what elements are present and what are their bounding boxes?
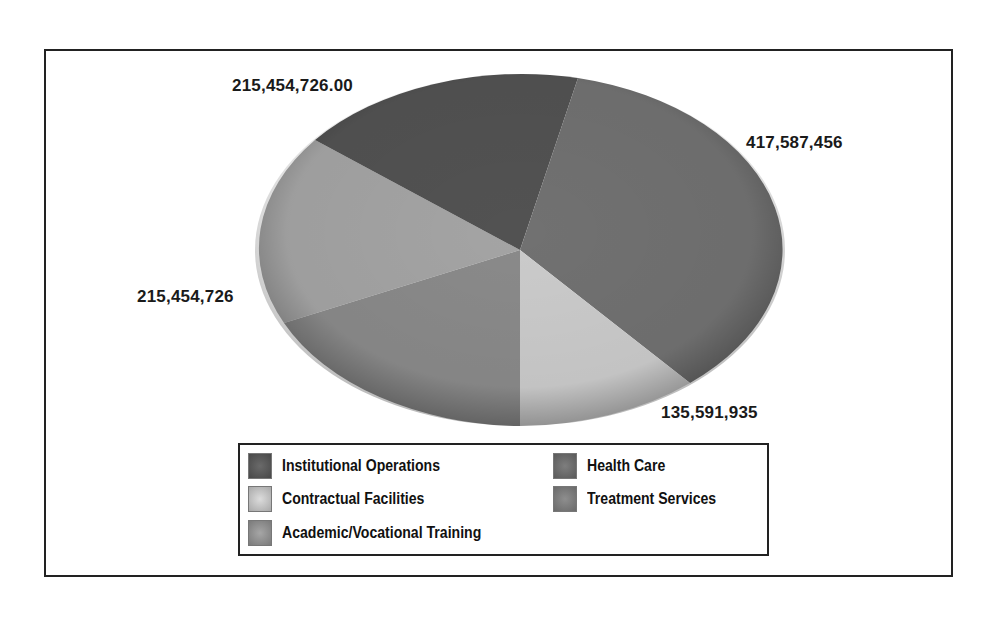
legend-label: Health Care <box>587 457 665 475</box>
label-treatment-services: 215,454,726 <box>137 287 234 307</box>
label-institutional-operations: 215,454,726.00 <box>232 76 353 96</box>
legend-item-health-care[interactable]: Health Care <box>553 452 676 480</box>
label-health-care: 417,587,456 <box>746 133 843 153</box>
legend-label: Academic/Vocational Training <box>282 524 481 542</box>
legend-item-treatment-services[interactable]: Treatment Services <box>553 485 734 513</box>
legend-label: Treatment Services <box>587 490 716 508</box>
legend-label: Contractual Facilities <box>282 490 424 508</box>
label-contractual-facilities: 135,591,935 <box>661 403 758 423</box>
legend-swatch <box>248 453 272 479</box>
legend-item-contractual-facilities[interactable]: Contractual Facilities <box>248 485 444 513</box>
legend-swatch <box>553 453 577 479</box>
legend-swatch <box>248 520 272 546</box>
legend-swatch <box>553 486 577 512</box>
legend-label: Institutional Operations <box>282 457 440 475</box>
legend-item-academic-vocational-training[interactable]: Academic/Vocational Training <box>248 519 508 547</box>
legend-swatch <box>248 486 272 512</box>
chart-legend: Institutional Operations Health Care Con… <box>238 443 769 556</box>
pie-shading <box>255 74 785 426</box>
legend-item-institutional-operations[interactable]: Institutional Operations <box>248 452 462 480</box>
